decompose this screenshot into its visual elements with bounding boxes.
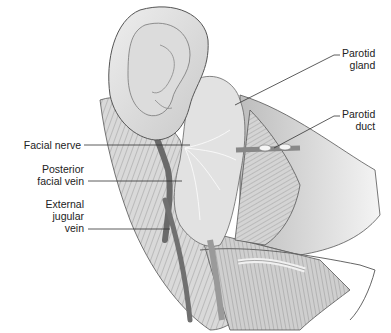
label-line: Facial nerve [24, 139, 81, 151]
label-line: External [45, 198, 84, 210]
leader-parotid-gland [235, 55, 340, 105]
label-line: jugular [45, 210, 84, 222]
label-line: Parotid [342, 108, 375, 120]
label-posterior-facial-vein: Posterior facial vein [37, 163, 84, 187]
label-line: Posterior [37, 163, 84, 175]
label-parotid-duct: Parotid duct [342, 108, 375, 132]
label-line: facial vein [37, 175, 84, 187]
label-line: duct [342, 120, 375, 132]
label-line: gland [342, 59, 375, 71]
label-parotid-gland: Parotid gland [342, 47, 375, 71]
label-facial-nerve: Facial nerve [24, 139, 81, 151]
label-line: vein [45, 222, 84, 234]
label-line: Parotid [342, 47, 375, 59]
label-external-jugular-vein: External jugular vein [45, 198, 84, 234]
